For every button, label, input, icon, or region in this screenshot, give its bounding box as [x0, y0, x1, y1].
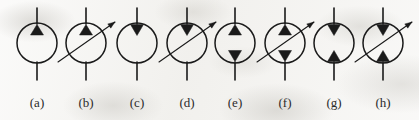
top-triangle-up-icon: [31, 25, 44, 36]
symbol-caption-f: (f): [265, 96, 305, 109]
circuit-symbol-source-up-arrow: [17, 8, 57, 80]
top-triangle-up-icon: [80, 25, 93, 36]
circuit-symbol-source-diverging-arrows: [215, 8, 255, 80]
variability-arrow-head-icon: [209, 22, 216, 28]
variability-arrow-head-icon: [108, 22, 115, 28]
symbol-caption-b: (b): [66, 96, 106, 109]
circuit-symbol-variable-source-down-arrow: [159, 8, 216, 80]
symbol-caption-a: (a): [17, 96, 57, 109]
symbol-caption-g: (g): [314, 96, 354, 109]
top-triangle-down-icon: [377, 25, 390, 36]
circuit-symbol-variable-source-converging-arrows: [355, 8, 412, 80]
circuit-symbols-figure: (a)(b)(c)(d)(e)(f)(g)(h): [0, 0, 419, 120]
circuit-symbol-variable-source-diverging-arrows: [257, 8, 314, 80]
top-triangle-down-icon: [131, 25, 144, 36]
top-triangle-down-icon: [181, 25, 194, 36]
top-triangle-down-icon: [328, 25, 341, 36]
variability-arrow-head-icon: [405, 22, 412, 28]
symbol-caption-h: (h): [363, 96, 403, 109]
bottom-triangle-up-icon: [377, 51, 390, 62]
top-triangle-up-icon: [229, 25, 242, 36]
variability-arrow-head-icon: [307, 22, 314, 28]
symbol-caption-c: (c): [117, 96, 157, 109]
symbol-caption-d: (d): [167, 96, 207, 109]
symbol-canvas: [0, 0, 419, 120]
bottom-triangle-down-icon: [279, 51, 292, 62]
circuit-symbol-source-converging-arrows: [314, 8, 354, 80]
circuit-symbol-source-down-arrow: [117, 8, 157, 80]
bottom-triangle-down-icon: [229, 51, 242, 62]
symbol-caption-e: (e): [215, 96, 255, 109]
bottom-triangle-up-icon: [328, 51, 341, 62]
circuit-symbol-variable-source-up-arrow: [58, 8, 115, 80]
top-triangle-up-icon: [279, 25, 292, 36]
